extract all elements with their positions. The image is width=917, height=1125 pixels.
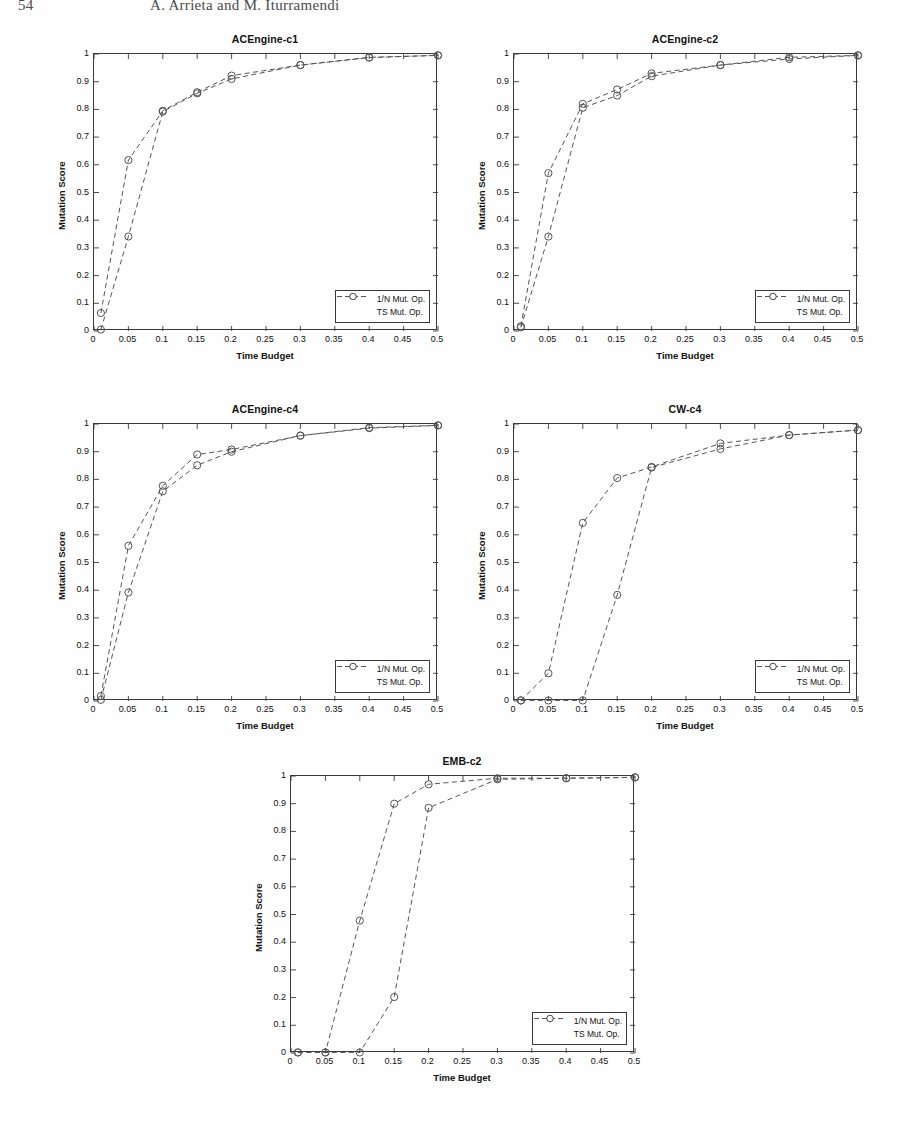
legend-item: TS Mut. Op.	[537, 1028, 622, 1041]
y-axis-label: Mutation Score	[253, 883, 264, 952]
x-axis-tick-label: 0.3	[490, 1056, 503, 1066]
legend-label: 1/N Mut. Op.	[574, 1016, 622, 1027]
y-axis-tick-label: 0	[258, 1047, 286, 1057]
x-axis-tick-label: 0.35	[522, 1056, 540, 1066]
legend-line-marker-icon	[537, 1029, 571, 1040]
y-axis-tick-label: 0.7	[258, 853, 286, 863]
y-axis-tick-label: 0.2	[258, 992, 286, 1002]
y-axis-tick-label: 0.8	[258, 825, 286, 835]
chart-panel-emb-c2: EMB-c21/N Mut. Op.TS Mut. Op.00.050.10.1…	[0, 0, 917, 1125]
x-axis-tick-label: 0.15	[384, 1056, 402, 1066]
figure-mutation-score-panels: ACEngine-c11/N Mut. Op.TS Mut. Op.00.050…	[0, 0, 917, 1125]
legend-label: TS Mut. Op.	[574, 1029, 620, 1040]
x-axis-tick-label: 0.25	[453, 1056, 471, 1066]
plot-area: 1/N Mut. Op.TS Mut. Op.	[290, 775, 634, 1052]
chart-legend: 1/N Mut. Op.TS Mut. Op.	[532, 1012, 627, 1045]
x-axis-tick-label: 0.5	[628, 1056, 641, 1066]
x-axis-tick-label: 0.45	[591, 1056, 609, 1066]
x-axis-tick-label: 0.2	[421, 1056, 434, 1066]
x-axis-tick-label: 0	[287, 1056, 292, 1066]
chart-title: EMB-c2	[290, 755, 634, 767]
y-axis-tick-label: 1	[258, 770, 286, 780]
data-point-marker	[391, 800, 398, 807]
y-axis-tick-label: 0.9	[258, 798, 286, 808]
x-axis-tick-label: 0.05	[316, 1056, 334, 1066]
y-axis-tick-label: 0.3	[258, 964, 286, 974]
x-axis-tick-label: 0.4	[559, 1056, 572, 1066]
x-axis-label: Time Budget	[290, 1072, 634, 1083]
y-axis-tick-label: 0.1	[258, 1019, 286, 1029]
x-axis-tick-label: 0.1	[353, 1056, 366, 1066]
